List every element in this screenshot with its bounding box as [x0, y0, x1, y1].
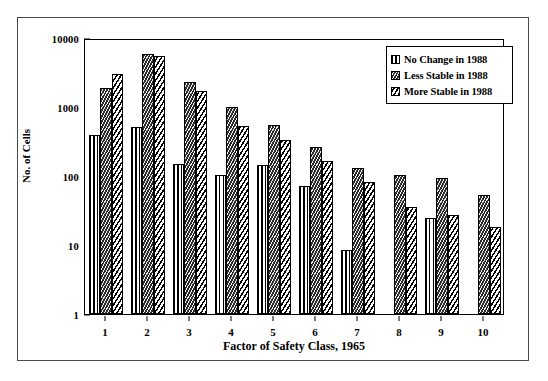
- legend-swatch-more-stable-icon: [391, 87, 400, 96]
- y-axis-tick-labels: 10000 1000 100 10 1: [26, 39, 79, 315]
- x-tick-label-6: 6: [312, 326, 318, 338]
- legend-label-less-stable: Less Stable in 1988: [404, 70, 488, 81]
- bar-less-stable-class-10: [478, 195, 489, 314]
- bar-no-change-class-9: [425, 218, 436, 314]
- legend-item-no-change: No Change in 1988: [391, 51, 507, 67]
- bar-no-change-class-2: [131, 127, 142, 314]
- bar-more-stable-class-8: [406, 207, 417, 314]
- x-tick-label-2: 2: [144, 326, 150, 338]
- x-tick-label-4: 4: [228, 326, 234, 338]
- bar-more-stable-class-10: [490, 227, 501, 314]
- legend-item-more-stable: More Stable in 1988: [391, 83, 507, 99]
- x-tick-label-3: 3: [186, 326, 192, 338]
- y-tick-10000: 10000: [52, 34, 79, 45]
- bar-less-stable-class-7: [352, 168, 363, 314]
- x-tick-label-10: 10: [478, 326, 489, 338]
- bar-no-change-class-7: [341, 250, 352, 314]
- bar-no-change-class-6: [299, 186, 310, 314]
- bar-less-stable-class-5: [268, 125, 279, 314]
- x-tick-mark-4: [231, 316, 232, 321]
- bar-more-stable-class-5: [280, 140, 291, 314]
- x-tick-mark-5: [273, 316, 274, 321]
- legend-label-no-change: No Change in 1988: [404, 54, 487, 65]
- x-tick-mark-2: [147, 316, 148, 321]
- bar-more-stable-class-6: [322, 161, 333, 314]
- y-tick-10: 10: [68, 241, 79, 252]
- x-tick-label-9: 9: [438, 326, 444, 338]
- legend: No Change in 1988 Less Stable in 1988 Mo…: [386, 46, 513, 104]
- x-tick-mark-3: [189, 316, 190, 321]
- legend-label-more-stable: More Stable in 1988: [404, 86, 492, 97]
- bar-less-stable-class-6: [310, 147, 321, 314]
- y-tick-100: 100: [63, 172, 79, 183]
- bar-more-stable-class-7: [364, 182, 375, 314]
- x-tick-label-8: 8: [396, 326, 402, 338]
- x-tick-mark-1: [105, 316, 106, 321]
- bar-no-change-class-1: [89, 135, 100, 314]
- bar-more-stable-class-1: [112, 74, 123, 314]
- plot-wrapper: No. of Cells 10000 1000 100 10 1 1234567…: [0, 0, 548, 381]
- bar-no-change-class-3: [173, 164, 184, 314]
- x-tick-mark-8: [399, 316, 400, 321]
- legend-item-less-stable: Less Stable in 1988: [391, 67, 507, 83]
- x-axis-label: Factor of Safety Class, 1965: [84, 339, 504, 354]
- bar-more-stable-class-2: [154, 56, 165, 314]
- x-tick-mark-10: [483, 316, 484, 321]
- bar-more-stable-class-3: [196, 91, 207, 314]
- x-tick-mark-6: [315, 316, 316, 321]
- y-tick-1: 1: [74, 310, 79, 321]
- x-tick-label-1: 1: [102, 326, 108, 338]
- x-tick-label-7: 7: [354, 326, 360, 338]
- legend-swatch-less-stable-icon: [391, 71, 400, 80]
- bar-less-stable-class-3: [184, 82, 195, 314]
- bar-no-change-class-5: [257, 165, 268, 314]
- bar-less-stable-class-4: [226, 107, 237, 314]
- bar-less-stable-class-8: [394, 175, 405, 314]
- x-tick-mark-7: [357, 316, 358, 321]
- bar-less-stable-class-9: [436, 178, 447, 314]
- bar-less-stable-class-2: [142, 54, 153, 314]
- bar-no-change-class-4: [215, 175, 226, 314]
- bar-less-stable-class-1: [100, 88, 111, 314]
- x-axis-ticks: 12345678910: [84, 316, 504, 340]
- legend-swatch-no-change-icon: [391, 55, 400, 64]
- x-tick-label-5: 5: [270, 326, 276, 338]
- x-tick-mark-9: [441, 316, 442, 321]
- figure-root: No. of Cells 10000 1000 100 10 1 1234567…: [0, 0, 548, 381]
- bar-more-stable-class-9: [448, 215, 459, 314]
- bar-more-stable-class-4: [238, 126, 249, 314]
- y-tick-1000: 1000: [57, 103, 79, 114]
